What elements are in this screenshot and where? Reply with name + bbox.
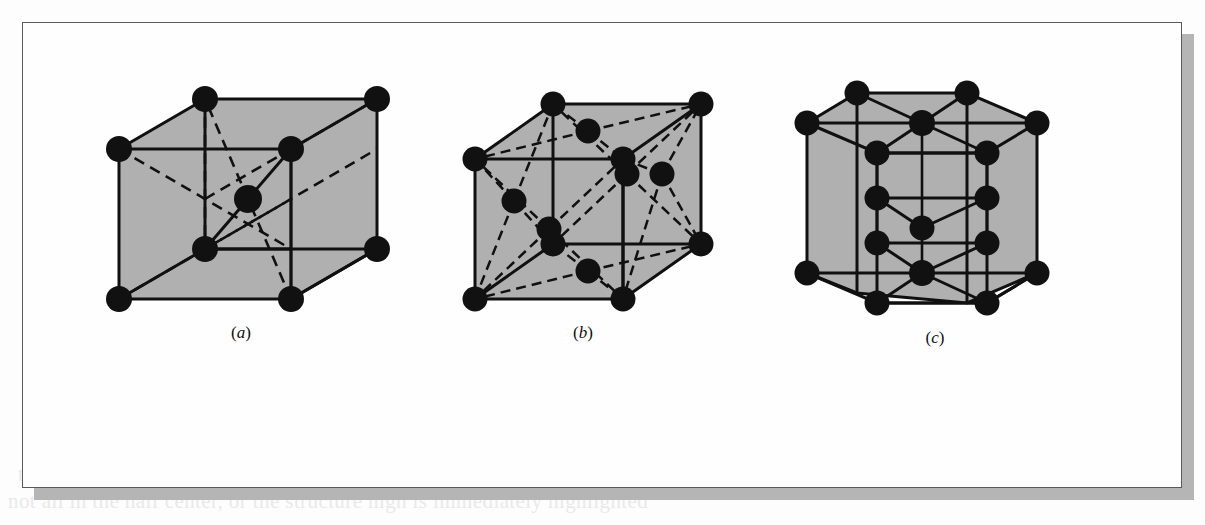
atom-corner	[278, 136, 304, 162]
atom-corner	[192, 86, 218, 112]
atom-face-center-front	[537, 217, 562, 242]
fcc-unit-cell-diagram	[433, 71, 733, 321]
atom-midplane	[975, 186, 1000, 211]
atom-corner-bottom	[975, 231, 1000, 256]
atom-corner-top	[955, 81, 980, 106]
atom-corner	[106, 286, 132, 312]
panel-a-label-close: )	[245, 323, 251, 342]
panel-c-label-letter: c	[931, 328, 939, 347]
panel-c-hcp: (c)	[765, 71, 1105, 401]
atom-face-center-top	[576, 119, 601, 144]
atom-corner	[364, 86, 390, 112]
atom-corner	[611, 287, 636, 312]
atom-corner-bottom	[795, 261, 820, 286]
atom-corner-top	[795, 111, 820, 136]
hcp-unit-cell-diagram	[785, 71, 1085, 326]
atom-corner	[689, 92, 714, 117]
atom-midplane	[865, 186, 890, 211]
panel-c-label: (c)	[765, 328, 1105, 348]
atom-corner-bottom	[865, 291, 890, 316]
atom-corner-top	[1025, 111, 1050, 136]
atom-face-center-right	[650, 162, 675, 187]
atom-corner-top	[865, 141, 890, 166]
atom-corner-bottom	[865, 231, 890, 256]
panel-a-label: (a)	[71, 323, 411, 343]
atom-face-center-bottom	[909, 260, 935, 286]
bcc-unit-cell-diagram	[91, 71, 391, 321]
atom-corner-bottom	[975, 291, 1000, 316]
panel-b-fcc: (b)	[413, 71, 753, 401]
atom-corner	[278, 286, 304, 312]
atom-face-center-left	[502, 189, 527, 214]
atom-corner	[689, 232, 714, 257]
atom-corner	[192, 236, 218, 262]
atom-corner-bottom	[1025, 261, 1050, 286]
atom-corner-top	[975, 141, 1000, 166]
panel-b-label-letter: b	[579, 323, 588, 342]
atom-corner	[463, 147, 488, 172]
panel-c-label-close: )	[939, 328, 945, 347]
panel-b-label: (b)	[413, 323, 753, 343]
atom-body-center	[234, 185, 262, 213]
atom-face-center-back	[615, 162, 640, 187]
atom-midplane	[910, 216, 935, 241]
atom-face-center-top	[909, 110, 935, 136]
atom-corner-top	[845, 81, 870, 106]
panel-b-label-close: )	[587, 323, 593, 342]
atom-corner	[541, 92, 566, 117]
figure-inner: (a)	[23, 23, 1181, 487]
atom-corner	[463, 287, 488, 312]
panel-a-label-letter: a	[237, 323, 246, 342]
figure-frame: (a)	[22, 22, 1182, 488]
atom-corner	[106, 136, 132, 162]
atom-face-center-bottom	[576, 259, 601, 284]
panel-a-bcc: (a)	[71, 71, 411, 401]
atom-corner	[364, 236, 390, 262]
